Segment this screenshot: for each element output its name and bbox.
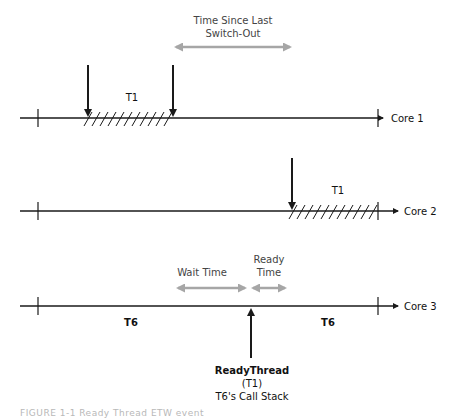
- ready-thread-annotation: ReadyThread (T1) T6's Call Stack: [214, 365, 289, 402]
- core-3-timeline: Ready Time Wait Time T6 T6 Core 3: [20, 254, 437, 358]
- core-3-label: Core 3: [404, 301, 437, 312]
- core-1-thread-label: T1: [125, 92, 138, 103]
- wait-time-label: Wait Time: [177, 267, 227, 278]
- ready-thread-title: ReadyThread: [215, 365, 289, 376]
- core-1-timeline: T1 Core 1: [20, 65, 424, 127]
- figure-caption: FIGURE 1-1 Ready Thread ETW event: [20, 408, 204, 418]
- core-3-right-thread-label: T6: [321, 317, 335, 328]
- time-since-last-switch-out-label-line1: Time Since Last: [193, 15, 273, 26]
- core-1-t1-hatch: [84, 112, 172, 126]
- core-2-timeline: T1 Core 2: [20, 158, 437, 220]
- time-since-last-switch-out-label-line2: Switch-Out: [205, 28, 260, 39]
- ready-time-label-line2: Time: [256, 267, 281, 278]
- time-since-last-switch-out-annotation: Time Since Last Switch-Out: [176, 15, 290, 47]
- core-3-left-thread-label: T6: [124, 317, 138, 328]
- core-2-t1-hatch: [289, 205, 377, 219]
- ready-time-label-line1: Ready: [253, 254, 284, 265]
- core-2-label: Core 2: [404, 206, 437, 217]
- core-2-thread-label: T1: [331, 185, 344, 196]
- ready-thread-call-stack: T6's Call Stack: [214, 391, 288, 402]
- ready-thread-subtitle: (T1): [242, 378, 262, 389]
- core-1-label: Core 1: [391, 113, 424, 124]
